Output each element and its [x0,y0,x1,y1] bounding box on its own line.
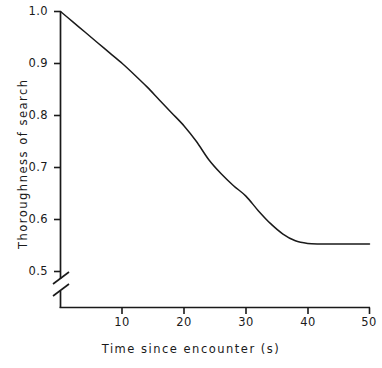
y-tick-label-1-0: 1.0 [10,6,48,18]
x-tick-label-30: 30 [238,317,253,329]
x-tick-label-40: 40 [300,317,315,329]
x-tick-label-50: 50 [361,317,376,329]
data-series-line [61,12,370,244]
y-tick-label-0-5: 0.5 [10,266,48,278]
x-tick-label-20: 20 [176,317,191,329]
y-tick-marks [54,12,61,272]
chart-figure: 1.0 0.9 0.8 0.7 0.6 0.5 10 20 30 40 50 T… [0,0,382,368]
y-axis-title: Thoroughness of search [18,64,30,264]
x-tick-marks [122,308,370,315]
plot-area [0,0,382,368]
x-axis-title: Time since encounter (s) [0,344,382,356]
x-tick-label-10: 10 [114,317,129,329]
